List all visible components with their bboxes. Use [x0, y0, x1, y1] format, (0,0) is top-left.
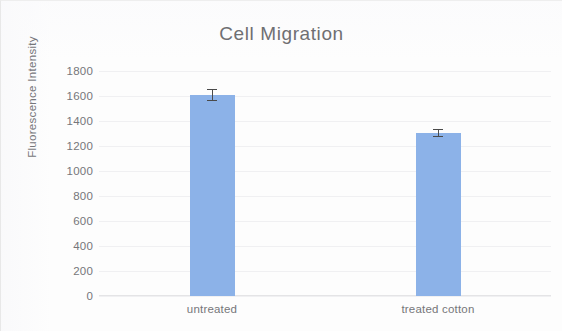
x-axis-line [99, 295, 551, 296]
y-axis-title: Fluorescence Intensity [26, 2, 38, 192]
x-axis-tick-label: untreated [187, 303, 237, 315]
bar [190, 95, 235, 296]
gridline [99, 121, 551, 122]
y-axis-tick-label: 600 [47, 215, 93, 227]
y-axis-tick-label: 400 [47, 240, 93, 252]
gridline [99, 171, 551, 172]
y-axis-tick-label: 0 [47, 290, 93, 302]
error-bar-stem [212, 89, 213, 100]
plot-area [99, 71, 551, 296]
x-axis-tick-label: treated cotton [401, 303, 474, 315]
gridline [99, 146, 551, 147]
y-axis-tick-label: 1200 [47, 140, 93, 152]
error-bar-stem [438, 129, 439, 136]
y-axis-tick-label: 1000 [47, 165, 93, 177]
error-bar-cap-lower [433, 136, 443, 137]
y-axis-tick-label: 1600 [47, 90, 93, 102]
error-bar-cap-upper [433, 129, 443, 130]
gridline [99, 71, 551, 72]
gridline [99, 246, 551, 247]
y-axis-tick-label: 1800 [47, 65, 93, 77]
y-axis-tick-label: 1400 [47, 115, 93, 127]
error-bar-cap-lower [207, 100, 217, 101]
bar [416, 133, 461, 296]
gridline [99, 196, 551, 197]
y-axis-tick-label: 800 [47, 190, 93, 202]
y-axis-tick-labels: 180016001400120010008006004002000 [47, 71, 93, 296]
gridline [99, 221, 551, 222]
gridline [99, 271, 551, 272]
chart-figure: Cell Migration Fluorescence Intensity 18… [0, 0, 562, 331]
y-axis-tick-label: 200 [47, 265, 93, 277]
error-bar-cap-upper [207, 89, 217, 90]
chart-title: Cell Migration [1, 23, 562, 45]
gridline [99, 96, 551, 97]
gridline [99, 296, 551, 297]
